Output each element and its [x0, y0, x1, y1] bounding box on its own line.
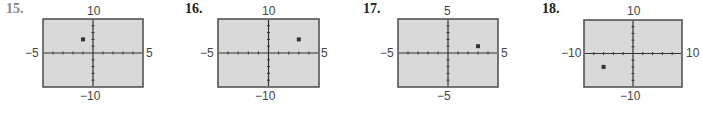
- x-max-label: 5: [321, 46, 328, 60]
- y-min-label: −10: [620, 89, 640, 103]
- graph-panel-17: 17. 5 −5 −5 5: [350, 0, 525, 115]
- y-max-label: 10: [87, 4, 100, 18]
- graph-panel-18: 18. 10 −10 −10 10: [525, 0, 702, 115]
- data-point: [476, 44, 480, 48]
- data-point: [602, 65, 606, 69]
- y-min-label: −10: [80, 89, 100, 103]
- y-min-label: −5: [437, 89, 451, 103]
- graph-plot: [584, 20, 682, 87]
- problem-number: 15.: [6, 1, 24, 17]
- problem-number: 16.: [185, 1, 203, 17]
- y-max-label: 10: [262, 4, 275, 18]
- x-min-label: −5: [380, 46, 394, 60]
- x-max-label: 10: [686, 46, 699, 60]
- graph-panel-16: 16. 10 −10 −5 5: [175, 0, 350, 115]
- x-max-label: 5: [146, 46, 153, 60]
- x-min-label: −5: [25, 46, 39, 60]
- y-min-label: −10: [255, 89, 275, 103]
- graph-plot: [218, 19, 319, 87]
- data-point: [297, 37, 301, 41]
- x-min-label: −5: [200, 46, 214, 60]
- graph-plot: [398, 19, 498, 87]
- data-point: [81, 37, 85, 41]
- x-min-label: −10: [561, 46, 581, 60]
- y-max-label: 10: [627, 4, 640, 18]
- graph-panel-15: 15. 10 −10 −5 5: [0, 0, 175, 115]
- graph-plot: [43, 19, 143, 87]
- problem-number: 17.: [363, 1, 381, 17]
- x-max-label: 5: [501, 46, 508, 60]
- y-max-label: 5: [444, 4, 451, 18]
- problem-number: 18.: [542, 1, 560, 17]
